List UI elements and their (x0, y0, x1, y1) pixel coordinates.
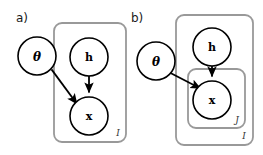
panel-a-edge-theta-to-x (52, 69, 78, 104)
graphical-model-figure: a) I θ h x (0, 0, 263, 155)
node-h-label: h (85, 51, 93, 64)
panel-a-node-theta: θ (18, 37, 56, 75)
panel-b-node-theta: θ (137, 42, 175, 80)
node-theta-label: θ (33, 50, 41, 64)
panel-a-node-x: x (70, 97, 108, 135)
panel-a-plate-i-label: I (115, 128, 120, 138)
node-x-label: x (86, 110, 93, 123)
node-x-label: x (209, 94, 216, 107)
panel-b-plate-j-label: J (233, 115, 240, 125)
node-theta-label: θ (152, 55, 160, 69)
node-h-label: h (208, 41, 216, 54)
panel-b-edge-theta-to-x (171, 73, 201, 89)
panel-a-label: a) (16, 11, 28, 25)
panel-b-node-h: h (193, 28, 231, 66)
panel-b-node-x: x (193, 81, 231, 119)
panel-b: b) I J θ h x (131, 11, 253, 145)
panel-a-node-h: h (70, 38, 108, 76)
figure-canvas: a) I θ h x (0, 0, 263, 155)
panel-b-label: b) (131, 11, 143, 25)
panel-b-plate-i-label: I (241, 131, 246, 141)
panel-a: a) I θ h x (16, 11, 126, 142)
